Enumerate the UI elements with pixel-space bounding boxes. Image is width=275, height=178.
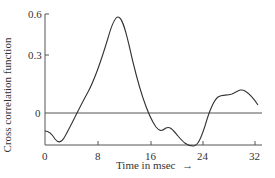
y-tick-label-0: 0 bbox=[35, 108, 41, 119]
arrow-right-icon: → bbox=[182, 159, 193, 171]
correlation-curve bbox=[45, 17, 258, 146]
x-axis-label: Time in msec → bbox=[116, 159, 193, 171]
x-axis-label-text: Time in msec bbox=[116, 159, 176, 171]
x-tick-label-24: 24 bbox=[197, 151, 208, 162]
y-axis-label: Cross correlation function bbox=[1, 38, 13, 153]
y-tick-label-0.6: 0.6 bbox=[28, 9, 42, 20]
x-tick-label-32: 32 bbox=[249, 151, 260, 162]
y-tick-label-0.3: 0.3 bbox=[28, 50, 42, 61]
x-tick-label-0: 0 bbox=[42, 151, 48, 162]
x-tick-label-8: 8 bbox=[95, 151, 101, 162]
